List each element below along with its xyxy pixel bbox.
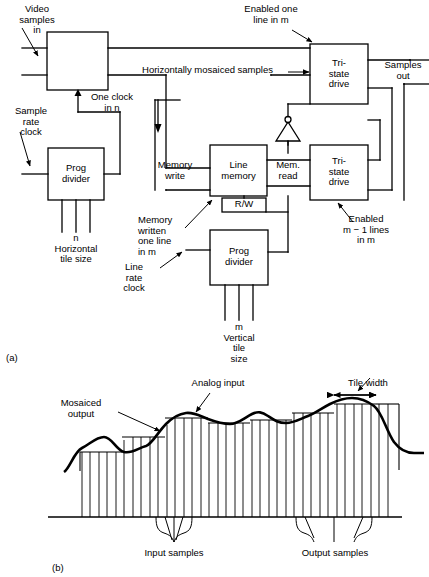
mosaiced-output-steps bbox=[80, 404, 399, 471]
label-tile-width: Tile width bbox=[336, 378, 400, 389]
label-samples-out: Samples out bbox=[378, 60, 428, 81]
panel-id-a: (a) bbox=[6, 352, 18, 363]
label-m-vertical-tile-size: m Vertical tile size bbox=[205, 322, 273, 364]
block-label-tristate-drive-upper: Tri- state drive bbox=[310, 58, 368, 90]
mosaicing-figure: Video samples in Sample rate clock One c… bbox=[0, 0, 429, 577]
block-label-prog-divider-horizontal: Prog divider bbox=[48, 163, 104, 184]
label-line-rate-clock: Line rate clock bbox=[110, 262, 158, 294]
input-samples-brace bbox=[156, 517, 192, 542]
label-output-samples: Output samples bbox=[292, 548, 378, 559]
label-sample-rate-clock: Sample rate clock bbox=[4, 106, 58, 138]
label-enabled-one-line-in-m: Enabled one line in m bbox=[233, 4, 309, 25]
label-input-samples: Input samples bbox=[134, 548, 214, 559]
label-memory-written-one-line-in-m: Memory written one line in m bbox=[138, 215, 198, 257]
sample-lines bbox=[82, 404, 388, 517]
output-samples-brace bbox=[296, 517, 372, 542]
block-label-prog-divider-vertical: Prog divider bbox=[210, 246, 268, 267]
label-mem-read: Mem. read bbox=[268, 160, 308, 181]
label-video-samples-in: Video samples in bbox=[10, 4, 64, 36]
block-label-line-memory: Line memory bbox=[210, 160, 267, 181]
label-memory-write: Memory write bbox=[150, 160, 200, 181]
label-enabled-m-minus-1-lines-in-m: Enabled m − 1 lines in m bbox=[328, 214, 404, 246]
analog-input-curve bbox=[64, 398, 424, 472]
block-label-tristate-drive-lower: Tri- state drive bbox=[310, 156, 368, 188]
label-one-clock-in-n: One clock in n bbox=[83, 92, 141, 113]
label-horizontally-mosaiced-samples: Horizontally mosaiced samples bbox=[130, 65, 285, 76]
label-mosaiced-output: Mosaiced output bbox=[48, 398, 114, 419]
label-analog-input: Analog input bbox=[178, 378, 258, 389]
label-n-horizontal-tile-size: n Horizontal tile size bbox=[40, 233, 112, 265]
input-latch-box bbox=[47, 32, 108, 90]
label-read-write: R/W bbox=[224, 199, 264, 210]
panel-id-b: (b) bbox=[52, 562, 64, 573]
